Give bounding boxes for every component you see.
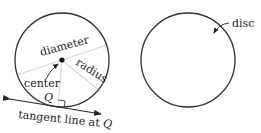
- center-dot: [59, 57, 64, 62]
- disc-label: disc: [232, 17, 254, 30]
- disc-outline: [141, 13, 235, 107]
- point-q-label: Q: [44, 91, 53, 104]
- right-angle-mark: [59, 100, 66, 106]
- tangent-line-label: tangent line at Q: [18, 108, 113, 131]
- tangent-label-point: Q: [102, 117, 112, 131]
- right-figure: disc: [141, 13, 254, 107]
- left-figure: diameter radius center Q tangent line at…: [10, 13, 113, 131]
- disc-arrow: [214, 23, 229, 33]
- center-label: center: [24, 77, 61, 90]
- tangent-label-prefix: tangent line at: [18, 108, 104, 130]
- diameter-label: diameter: [38, 33, 91, 59]
- circle-diagram: diameter radius center Q tangent line at…: [0, 0, 261, 133]
- radius-label: radius: [73, 56, 110, 86]
